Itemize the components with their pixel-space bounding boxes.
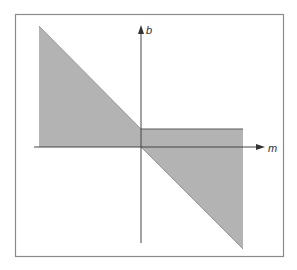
shaded-region-strip (141, 129, 243, 147)
m-axis-label: m (268, 142, 277, 154)
b-axis-label: b (146, 24, 152, 36)
diagram-figure: m b (0, 0, 297, 270)
